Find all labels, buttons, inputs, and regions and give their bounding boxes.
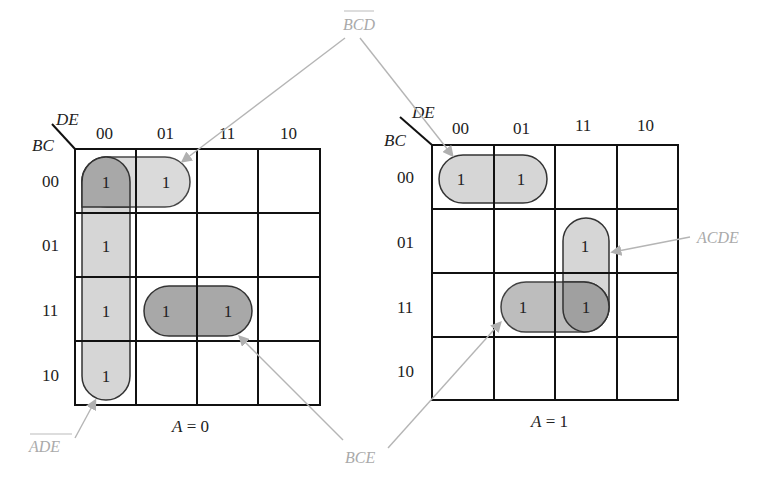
term-ade: ADE	[28, 401, 95, 455]
col-label: 00	[96, 124, 113, 143]
row-label: 11	[397, 298, 413, 317]
kmap-grid-a1	[400, 117, 678, 400]
row-label: 10	[397, 362, 414, 381]
row-label: 01	[42, 236, 59, 255]
cell: 1	[519, 298, 528, 317]
cell: 1	[102, 367, 111, 386]
term-acde: ACDE	[613, 229, 739, 252]
col-label: 11	[575, 116, 591, 135]
col-label: 00	[452, 119, 469, 138]
arrow-bcd-a0	[183, 38, 345, 161]
map-caption-a0: A = 0	[171, 417, 209, 436]
cell: 1	[224, 302, 233, 321]
cell: 1	[582, 298, 591, 317]
term-bcd-label: BCD	[343, 16, 375, 33]
cell: 1	[581, 237, 590, 256]
kmap-a0: DE BC 00 01 11 10 00 01 11 10 1 1 1 1 1 …	[32, 110, 320, 436]
cell: 1	[102, 302, 111, 321]
kmap-a1: DE BC 00 01 11 10 00 01 11 10 1 1 1 1 1 …	[384, 103, 678, 431]
cell: 1	[162, 173, 171, 192]
row-label: 00	[397, 168, 414, 187]
term-acde-label: ACDE	[696, 229, 739, 246]
col-label: 01	[513, 119, 530, 138]
term-bce: BCE	[240, 323, 500, 466]
row-label: 01	[397, 233, 414, 252]
arrow-bce-a0	[240, 337, 343, 440]
map-caption-a1: A = 1	[530, 412, 568, 431]
col-label: 01	[157, 124, 174, 143]
col-label: 10	[637, 116, 654, 135]
col-label: 10	[280, 124, 297, 143]
col-var-label-a0: DE	[55, 110, 79, 129]
kmap-diagram: DE BC 00 01 11 10 00 01 11 10 1 1 1 1 1 …	[0, 0, 774, 489]
cell: 1	[102, 237, 111, 256]
row-label: 00	[42, 172, 59, 191]
cell: 1	[162, 302, 171, 321]
row-var-label-a1: BC	[384, 131, 406, 150]
row-label: 11	[42, 301, 58, 320]
cell: 1	[517, 170, 526, 189]
cell: 1	[457, 170, 466, 189]
row-label: 10	[42, 366, 59, 385]
arrow-ade	[75, 401, 95, 438]
arrow-bcd-a1	[360, 38, 452, 155]
row-var-label-a0: BC	[32, 136, 54, 155]
cell: 1	[102, 173, 111, 192]
term-ade-label: ADE	[28, 438, 60, 455]
term-bce-label: BCE	[345, 449, 375, 466]
arrow-bce-a1	[388, 323, 500, 448]
